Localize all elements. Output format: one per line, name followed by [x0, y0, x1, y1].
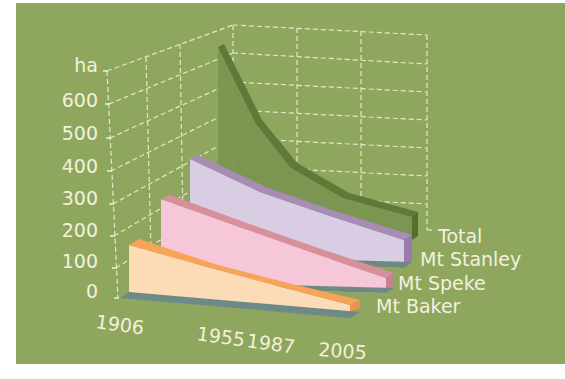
- legend-total: Total: [437, 225, 482, 247]
- x-tick-1987: 1987: [245, 329, 296, 358]
- legend-mt-speke: Mt Speke: [398, 272, 486, 294]
- x-axis-labels: 1906 1955 1987 2005: [94, 310, 367, 363]
- y-tick-400: 400: [62, 155, 98, 177]
- ribbon-chart: ha 600 500 400 300 200 100 0 1906 1955 1…: [0, 0, 565, 379]
- x-tick-1906: 1906: [94, 310, 145, 339]
- y-tick-0: 0: [86, 280, 98, 302]
- legend-mt-stanley: Mt Stanley: [420, 248, 521, 270]
- x-tick-2005: 2005: [318, 338, 368, 363]
- y-tick-100: 100: [62, 250, 98, 272]
- y-tick-300: 300: [62, 187, 98, 209]
- y-tick-600: 600: [62, 89, 98, 111]
- y-tick-200: 200: [62, 219, 98, 241]
- legend-mt-baker: Mt Baker: [376, 295, 461, 317]
- y-unit-label: ha: [74, 54, 98, 76]
- y-tick-500: 500: [62, 122, 98, 144]
- y-axis-labels: ha 600 500 400 300 200 100 0: [62, 54, 98, 302]
- x-tick-1955: 1955: [195, 322, 246, 351]
